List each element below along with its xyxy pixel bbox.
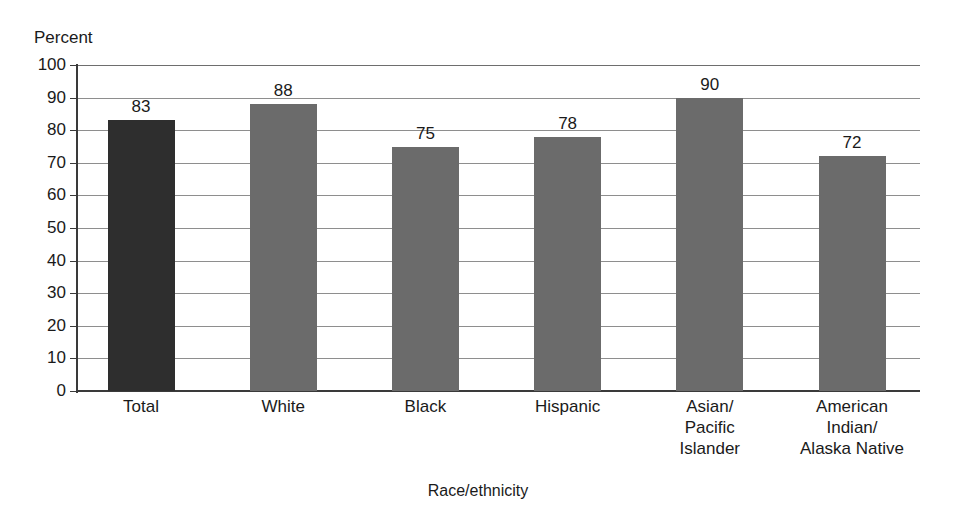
x-tick-label: Total — [71, 396, 211, 417]
x-axis-line — [76, 390, 920, 392]
y-tick-label: 70 — [8, 154, 66, 172]
gridline — [76, 130, 920, 131]
y-tick-label: 10 — [8, 349, 66, 367]
gridline — [76, 65, 920, 66]
y-tick-label: 30 — [8, 284, 66, 302]
gridline — [76, 326, 920, 327]
y-axis-line — [76, 64, 78, 393]
y-tick-label: 20 — [8, 317, 66, 335]
gridline — [76, 163, 920, 164]
x-tick-label: Asian/ Pacific Islander — [640, 396, 780, 459]
y-tick-label: 0 — [8, 382, 66, 400]
bar-value-label: 75 — [385, 125, 465, 143]
y-tick-label: 60 — [8, 186, 66, 204]
y-tick-label: 50 — [8, 219, 66, 237]
x-tick-label: Black — [355, 396, 495, 417]
bar — [108, 120, 175, 391]
x-tick-label: Hispanic — [498, 396, 638, 417]
x-tick-label: White — [213, 396, 353, 417]
gridline — [76, 293, 920, 294]
x-axis-title: Race/ethnicity — [0, 481, 956, 500]
bar-value-label: 78 — [528, 115, 608, 133]
gridline — [76, 195, 920, 196]
gridline — [76, 358, 920, 359]
gridline — [76, 98, 920, 99]
y-tick-label: 40 — [8, 252, 66, 270]
bar — [250, 104, 317, 391]
bar — [534, 137, 601, 391]
y-tick-label: 100 — [8, 56, 66, 74]
gridline — [76, 261, 920, 262]
bar-chart: Percent 0102030405060708090100 83Total88… — [0, 0, 956, 514]
plot-area — [76, 65, 920, 391]
bar — [819, 156, 886, 391]
bar-value-label: 83 — [101, 98, 181, 116]
y-axis-label: Percent — [34, 28, 93, 48]
y-tick-label: 90 — [8, 89, 66, 107]
x-tick-label: American Indian/ Alaska Native — [782, 396, 922, 459]
gridline — [76, 228, 920, 229]
bar — [676, 98, 743, 391]
bar-value-label: 72 — [812, 134, 892, 152]
y-tick-label: 80 — [8, 121, 66, 139]
bar — [392, 147, 459, 392]
bar-value-label: 90 — [670, 76, 750, 94]
bar-value-label: 88 — [243, 82, 323, 100]
